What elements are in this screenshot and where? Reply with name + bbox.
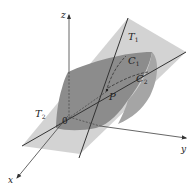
z-axis-label: z	[60, 10, 66, 20]
x-axis-label: x	[8, 175, 13, 185]
y-axis	[100, 126, 186, 138]
t2-label: T2	[35, 108, 46, 120]
point-p	[106, 89, 108, 91]
y-axis-label: y	[180, 144, 187, 154]
tangent-plane-diagram: z x y 0 P T1 C1 C2 T2	[0, 0, 196, 190]
point-p-label: P	[108, 91, 116, 102]
origin-label: 0	[62, 116, 68, 126]
